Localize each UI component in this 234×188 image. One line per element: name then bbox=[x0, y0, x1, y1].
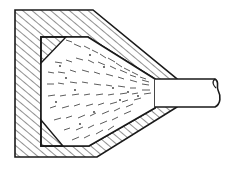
inlet-tube bbox=[155, 79, 220, 107]
chamber-cross-section-diagram bbox=[0, 0, 234, 188]
